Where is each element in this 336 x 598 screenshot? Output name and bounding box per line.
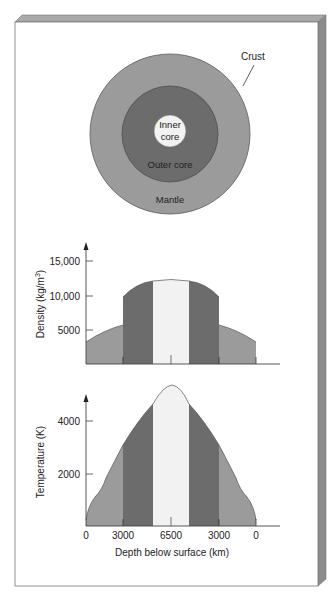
inner-core-label-2: core <box>161 131 179 142</box>
xtick-3000-left: 3000 <box>112 530 135 541</box>
xtick-6500: 6500 <box>160 530 183 541</box>
xtick-0-left: 0 <box>83 530 89 541</box>
mantle-label: Mantle <box>156 194 185 205</box>
temperature-y-label: Temperature (K) <box>35 426 46 498</box>
temperature-inner-core <box>153 385 189 526</box>
xtick-3000-right: 3000 <box>208 530 231 541</box>
density-ytick-5000: 5000 <box>58 325 81 336</box>
x-axis-label: Depth below surface (km) <box>115 547 229 558</box>
density-inner-core <box>153 280 189 365</box>
density-ytick-10000: 10,000 <box>49 291 80 302</box>
crust-label: Crust <box>241 51 265 62</box>
density-outer-core-left <box>123 281 153 364</box>
xtick-0-right: 0 <box>253 530 259 541</box>
temperature-ytick-4000: 4000 <box>58 416 81 427</box>
density-y-label: Density (kg/m3) <box>34 270 46 338</box>
density-outer-core-right <box>189 281 219 364</box>
temperature-ytick-2000: 2000 <box>58 469 81 480</box>
figure-panel: Crust Inner core Outer core Mantle 5000 … <box>0 0 336 598</box>
density-ytick-15000: 15,000 <box>49 256 80 267</box>
outer-core-label: Outer core <box>148 159 193 170</box>
inner-core-label-1: Inner <box>159 119 181 130</box>
